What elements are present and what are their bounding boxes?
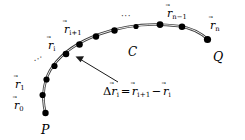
label-ri-subscript: i	[53, 45, 55, 53]
curve-point	[133, 24, 138, 29]
figure-canvas	[0, 0, 245, 140]
curve-point	[63, 51, 70, 58]
leader-arrow-to-curve	[76, 56, 119, 82]
vector-arrow-icon: ⃗	[210, 16, 215, 25]
curve-point	[179, 24, 186, 31]
label-ri: ⃗ri	[48, 40, 56, 53]
label-rn-minus-1: ⃗rn−1	[167, 8, 187, 21]
label-r0: ⃗r0	[14, 100, 24, 113]
label-ri-plus-1: ⃗ri+1	[64, 24, 82, 37]
label-point-P: P	[41, 124, 49, 137]
label-r1-subscript: 1	[20, 84, 24, 92]
vector-arrow-icon: ⃗	[15, 75, 20, 84]
curve-integral-figure: ⃗r0 ⃗r1 ⃗ri ⃗ri+1 ⃗rn−1 ⃗rn C P Q ··· ··…	[0, 0, 245, 140]
curve-C-path	[43, 25, 208, 113]
curve-point	[43, 76, 49, 82]
formula-term1-subscript: i+1	[137, 90, 150, 99]
curve-point	[111, 27, 117, 33]
label-rn: ⃗rn	[210, 20, 220, 33]
label-r1: ⃗r1	[15, 79, 25, 92]
formula-equals: =	[119, 84, 132, 98]
label-rn-subscript: n	[215, 25, 219, 33]
curve-point	[40, 92, 46, 98]
ellipsis-upper-middle: ···	[121, 12, 131, 21]
vector-arrow-icon: ⃗	[64, 20, 69, 29]
formula-delta-symbol: Δ	[103, 84, 111, 98]
curve-point	[42, 110, 48, 116]
label-r0-subscript: 0	[19, 105, 23, 113]
label-curve-C: C	[128, 46, 137, 58]
curve-point	[157, 21, 164, 28]
vector-arrow-icon: ⃗	[163, 81, 169, 90]
vector-arrow-icon: ⃗	[14, 96, 19, 105]
label-rn-minus-1-subscript: n−1	[172, 13, 187, 21]
label-point-Q: Q	[213, 51, 223, 64]
curve-point	[76, 41, 83, 48]
curve-point	[204, 36, 211, 43]
formula-minus: −	[150, 84, 163, 98]
label-ri-plus-1-subscript: i+1	[69, 29, 81, 37]
curve-point	[51, 63, 57, 69]
vector-arrow-icon: ⃗	[132, 81, 138, 90]
formula-term2-subscript: i	[168, 90, 170, 99]
vector-arrow-icon: ⃗	[167, 4, 172, 13]
curve-point	[93, 33, 99, 39]
formula-delta-r: Δ⃗ri=⃗ri+1−⃗ri	[103, 86, 171, 98]
vector-arrow-icon: ⃗	[111, 81, 117, 90]
vector-arrow-icon: ⃗	[48, 36, 53, 45]
